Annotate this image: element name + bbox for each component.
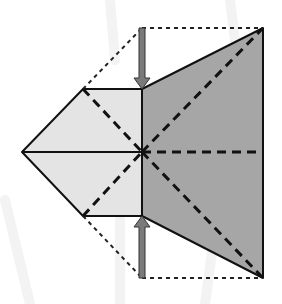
watermark-stroke bbox=[110, 0, 115, 60]
arrow-down-icon bbox=[134, 28, 150, 89]
hidden-edge-bottom-left bbox=[83, 216, 142, 278]
diagram-canvas bbox=[0, 0, 282, 304]
watermark-stroke bbox=[230, 0, 235, 40]
watermark-stroke bbox=[5, 200, 30, 304]
arrow-up-icon bbox=[134, 216, 150, 278]
origami-diagram bbox=[0, 0, 282, 304]
